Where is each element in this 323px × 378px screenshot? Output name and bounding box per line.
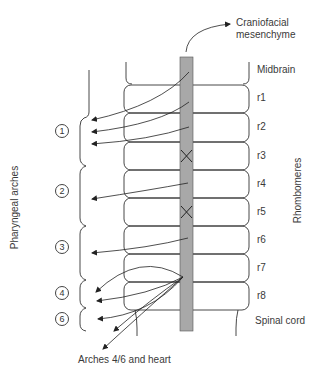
segment-label-r4: r4 [257,178,266,190]
arch-number-3: 3 [55,240,69,254]
pharyngeal-arches-axis-label: Pharyngeal arches [9,163,20,253]
rhombomeres-axis-label: Rhombomeres [292,156,303,226]
segment-label-r2: r2 [257,121,266,133]
arch-number-1: 1 [55,124,69,138]
segment-label-r8: r8 [257,290,266,302]
migration-arrows [92,24,230,349]
neural-crest-bar [180,57,193,331]
segment-label-r3: r3 [257,150,266,162]
arch-number-6: 6 [55,312,69,326]
arches-heart-label: Arches 4/6 and heart [78,354,171,366]
segment-label-spinal-cord: Spinal cord [255,315,305,327]
craniofacial-mesenchyme-label: Craniofacial mesenchyme [236,17,295,41]
segment-label-midbrain: Midbrain [257,64,295,76]
segment-label-r7: r7 [257,262,266,274]
arch-number-2: 2 [55,184,69,198]
segment-label-r1: r1 [257,92,266,104]
segment-label-r5: r5 [257,206,266,218]
arch-number-4: 4 [55,286,69,300]
segment-label-r6: r6 [257,234,266,246]
arch-braces [80,70,89,331]
